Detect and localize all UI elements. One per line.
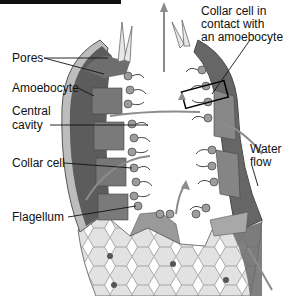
label-water-flow-line2: flow (250, 156, 271, 169)
label-collar-cell: Collar cell (12, 157, 65, 170)
label-collar-contact-line3: an amoebocyte (201, 31, 283, 44)
label-pores: Pores (12, 52, 43, 65)
label-central-cavity-line2: cavity (12, 119, 43, 132)
label-central-cavity-line1: Central (12, 105, 51, 118)
label-flagellum: Flagellum (12, 211, 64, 224)
label-amoebocyte: Amoebocyte (12, 82, 79, 95)
